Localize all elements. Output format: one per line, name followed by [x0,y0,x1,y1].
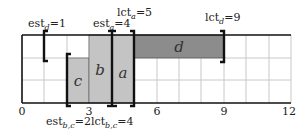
est-a-annotation: esta=4 [93,17,131,32]
task-c-label: c [74,72,83,90]
lct-a-annotation: lcta=5 [117,6,152,21]
task-b-label: b [95,61,105,79]
est-bc-annotation: estb,c=2 [46,115,91,130]
tick-12: 12 [282,105,296,118]
task-a-label: a [119,64,128,82]
task-d: d [134,35,224,58]
lct-bc-annotation: lctb,c=4 [91,115,133,130]
tick-6: 6 [154,105,161,118]
task-a: a [112,35,134,103]
task-c: c [67,58,89,103]
scheduling-diagram: c b a d 0 3 6 9 12 es [0,0,308,132]
tick-9: 9 [221,105,228,118]
lct-d-annotation: lctd=9 [205,11,240,26]
task-d-label: d [174,38,184,56]
est-d-annotation: estd=1 [28,17,66,32]
tick-0: 0 [19,105,26,118]
task-b: b [89,35,112,103]
